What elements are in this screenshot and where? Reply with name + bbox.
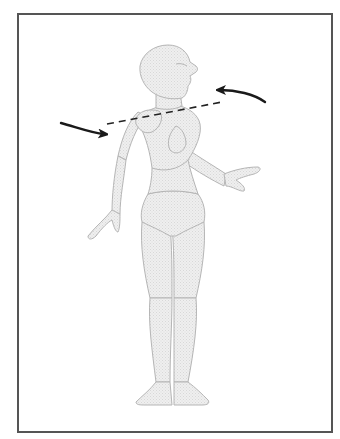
foot-right	[174, 382, 209, 405]
rotation-arrow-back-icon	[220, 90, 265, 102]
diagram-canvas: Shoulder rotation around axis	[0, 0, 340, 439]
mannequin-illustration	[0, 0, 340, 439]
arm-lower-left	[112, 156, 126, 214]
head	[140, 45, 198, 99]
mannequin-figure	[88, 45, 260, 405]
foot-left	[136, 382, 172, 405]
leg-lower-left	[149, 298, 172, 382]
hand-left	[88, 210, 120, 239]
hand-right	[224, 167, 260, 191]
rotation-arrow-front-icon	[61, 123, 104, 134]
leg-lower-right	[174, 298, 197, 382]
